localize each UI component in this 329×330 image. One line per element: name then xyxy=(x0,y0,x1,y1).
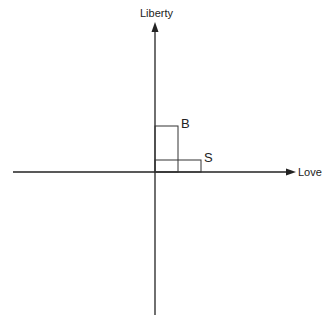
diagram-canvas xyxy=(0,0,329,330)
box-b xyxy=(155,126,178,172)
box-s-label: S xyxy=(204,151,213,164)
box-b-label: B xyxy=(181,117,190,130)
arrow-right-icon xyxy=(286,169,296,176)
horizontal-axis-label: Love xyxy=(298,167,322,178)
vertical-axis-label: Liberty xyxy=(140,8,173,19)
arrow-up-icon xyxy=(152,22,159,32)
